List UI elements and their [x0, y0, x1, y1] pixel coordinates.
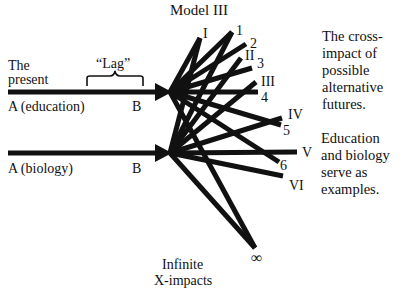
caption-line: impact of	[322, 45, 383, 62]
caption-line: serve as	[321, 164, 390, 181]
future-label-IV: IV	[288, 107, 303, 122]
future-label-infinity: ∞	[251, 250, 262, 265]
arrowhead-top	[155, 83, 172, 101]
infinite-label-line1: Infinite	[162, 257, 203, 272]
lag-label: “Lag”	[96, 56, 130, 71]
caption-line: possible	[322, 62, 383, 79]
caption-line: futures.	[322, 96, 383, 113]
future-label-3: 3	[257, 56, 264, 71]
present-label-line2: present	[8, 72, 48, 87]
caption-examples: Education and biology serve as examples.	[321, 130, 390, 198]
future-label-5: 5	[283, 123, 290, 138]
caption-cross-impact: The cross- impact of possible alternativ…	[322, 28, 383, 113]
future-label-I: I	[203, 26, 208, 41]
caption-line: Education	[321, 130, 390, 147]
present-label-line1: The	[8, 58, 30, 73]
future-label-V: V	[302, 145, 312, 160]
future-label-VI: VI	[289, 178, 304, 193]
caption-line: alternative	[322, 79, 383, 96]
future-label-II: II	[245, 48, 254, 63]
row-education-start: A (education)	[8, 99, 85, 114]
row-biology-end: B	[132, 161, 141, 176]
caption-line: The cross-	[322, 28, 383, 45]
diagram-title: Model III	[170, 3, 228, 18]
caption-line: and biology	[321, 147, 390, 164]
row-biology-start: A (biology)	[8, 161, 73, 176]
caption-line: examples.	[321, 181, 390, 198]
future-label-1: 1	[236, 23, 243, 38]
future-label-III: III	[261, 74, 275, 89]
future-label-6: 6	[280, 158, 287, 173]
row-education-end: B	[132, 99, 141, 114]
lag-brace	[87, 71, 143, 86]
infinite-label-line2: X-impacts	[154, 273, 212, 288]
future-label-4: 4	[261, 90, 268, 105]
